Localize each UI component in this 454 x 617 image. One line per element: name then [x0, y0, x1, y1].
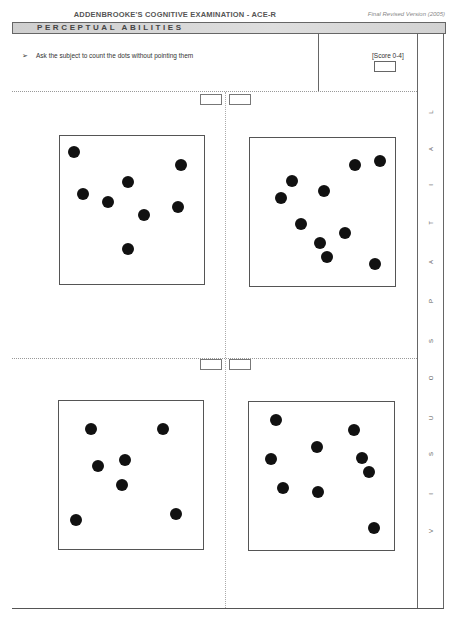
dot: [348, 424, 360, 436]
side-letter: L: [428, 102, 434, 122]
dot: [312, 486, 324, 498]
dot: [102, 196, 114, 208]
dot: [138, 209, 150, 221]
answer-box-panel-1[interactable]: [200, 94, 222, 105]
dot: [356, 452, 368, 464]
dot: [368, 522, 380, 534]
dot: [369, 258, 381, 270]
side-letter: V: [428, 521, 434, 541]
bullet-arrow-icon: ➢: [22, 52, 28, 59]
dot: [172, 201, 184, 213]
score-column-divider: [318, 33, 319, 91]
side-letter: U: [428, 408, 434, 428]
dot: [314, 237, 326, 249]
side-letter: S: [428, 331, 434, 351]
bottom-border: [12, 608, 444, 609]
dot: [311, 441, 323, 453]
dot: [68, 146, 80, 158]
dot: [116, 479, 128, 491]
side-letter: P: [428, 291, 434, 311]
dot: [318, 185, 330, 197]
document-title: ADDENBROOKE'S COGNITIVE EXAMINATION - AC…: [60, 10, 290, 19]
dot: [157, 423, 169, 435]
section-header-bar: PERCEPTUAL ABILITIES: [12, 22, 446, 34]
side-letter: T: [428, 213, 434, 233]
dot: [349, 159, 361, 171]
side-letter: A: [428, 252, 434, 272]
dot: [295, 218, 307, 230]
dot: [122, 176, 134, 188]
dot: [363, 466, 375, 478]
dot: [265, 453, 277, 465]
dot: [77, 188, 89, 200]
dot: [275, 192, 287, 204]
dot: [92, 460, 104, 472]
score-label: [Score 0-4]: [372, 52, 404, 59]
side-column-left-border: [417, 33, 418, 609]
section-title: PERCEPTUAL ABILITIES: [37, 23, 184, 33]
total-score-box[interactable]: [374, 61, 396, 72]
dot: [286, 175, 298, 187]
answer-box-panel-3[interactable]: [200, 359, 222, 370]
side-letter: S: [428, 444, 434, 464]
dot: [122, 243, 134, 255]
answer-box-panel-2[interactable]: [229, 94, 251, 105]
dot: [339, 227, 351, 239]
instruction-text: Ask the subject to count the dots withou…: [36, 52, 193, 59]
dot: [170, 508, 182, 520]
side-column-right-border: [443, 33, 444, 609]
side-letter: I: [428, 175, 434, 195]
dot: [321, 251, 333, 263]
dot: [119, 454, 131, 466]
side-letter: O: [428, 368, 434, 388]
dot: [374, 155, 386, 167]
dot: [277, 482, 289, 494]
side-letter: I: [428, 484, 434, 504]
dot-panel-3: [58, 400, 204, 550]
side-letter: A: [428, 139, 434, 159]
dot: [70, 514, 82, 526]
answer-box-panel-4[interactable]: [229, 359, 251, 370]
dot: [85, 423, 97, 435]
dot: [270, 414, 282, 426]
instruction: ➢Ask the subject to count the dots witho…: [22, 52, 193, 60]
grid-divider-vertical: [225, 92, 226, 608]
dot: [175, 159, 187, 171]
grid-divider-top: [12, 91, 417, 92]
version-label: Final Revised Version (2005): [340, 11, 445, 17]
